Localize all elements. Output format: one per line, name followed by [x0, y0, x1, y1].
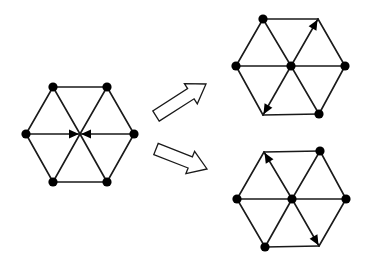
graph-edge [26, 87, 53, 134]
graph-edge [318, 19, 345, 66]
graph-edge [53, 134, 80, 182]
graph-node [340, 61, 349, 70]
arrowhead-icon [265, 153, 274, 164]
graph-node [315, 146, 324, 155]
transition-arrow-to-top-icon [153, 84, 206, 122]
graph-edge [53, 87, 80, 134]
graph-node [286, 61, 295, 70]
graph-node [260, 242, 269, 251]
graph-edge [107, 87, 134, 134]
graph-edge [26, 134, 53, 182]
graph-edge [237, 199, 265, 247]
graph-edge [107, 134, 134, 182]
transition-arrow-to-bottom-icon [154, 143, 207, 173]
graph-node [48, 82, 57, 91]
graph-edge [80, 87, 107, 134]
graph-edge [264, 151, 320, 152]
hexagon-graph-transition-diagram [0, 0, 371, 264]
graph-edge [236, 19, 263, 66]
graph-edge [237, 152, 264, 199]
result-bottom-hexagon-graph [232, 146, 350, 251]
graph-edge [320, 151, 346, 199]
graph-edge [265, 199, 292, 247]
graph-node [129, 129, 138, 138]
graph-node [258, 14, 267, 23]
diagram-canvas [0, 0, 371, 264]
graph-node [48, 177, 57, 186]
graph-edge [291, 66, 319, 114]
graph-edge [80, 134, 107, 182]
graph-node [341, 194, 350, 203]
graph-edge [263, 19, 291, 66]
graph-edge [263, 114, 319, 115]
graph-edge [265, 246, 319, 247]
graph-node [314, 109, 323, 118]
graph-edge [292, 151, 320, 199]
graph-edge [319, 199, 346, 246]
graph-node [287, 194, 296, 203]
initial-hexagon-graph [21, 82, 138, 186]
graph-node [102, 82, 111, 91]
graph-node [102, 177, 111, 186]
graph-node [21, 129, 30, 138]
transition-arrows [153, 84, 207, 174]
graph-node [231, 61, 240, 70]
result-top-hexagon-graph [231, 14, 349, 118]
graph-node [232, 194, 241, 203]
graph-edge [236, 66, 263, 115]
graph-edge [319, 66, 345, 114]
